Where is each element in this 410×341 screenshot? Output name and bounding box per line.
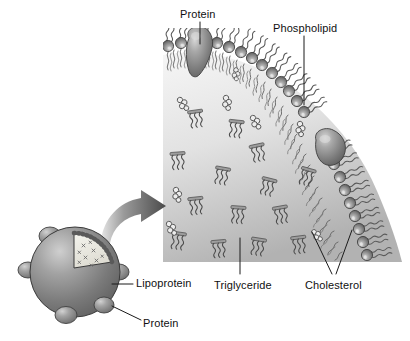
- lipoprotein-sphere: [18, 227, 129, 324]
- surface-protein-bump: [94, 297, 114, 313]
- leader-protein-bottom: [112, 306, 141, 320]
- label-lipoprotein: Lipoprotein: [136, 277, 192, 289]
- label-cholesterol: Cholesterol: [305, 279, 362, 291]
- label-phospholipid: Phospholipid: [273, 22, 337, 34]
- magnified-membrane-panel: [162, 16, 410, 262]
- label-protein-bottom: Protein: [143, 317, 179, 329]
- surface-protein-bump: [55, 307, 77, 324]
- label-protein-top: Protein: [180, 8, 216, 20]
- magnification-arrow: [101, 190, 166, 243]
- label-triglyceride: Triglyceride: [214, 279, 272, 291]
